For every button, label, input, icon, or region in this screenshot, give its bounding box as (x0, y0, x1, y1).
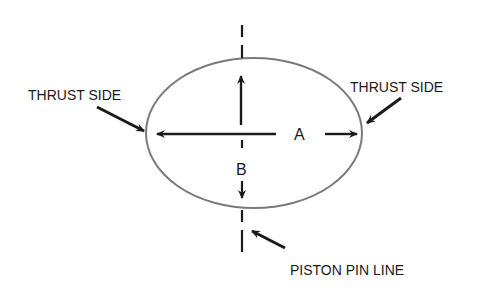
thrust-right-pointer (367, 98, 401, 123)
label-thrust-side-right: THRUST SIDE (350, 79, 443, 95)
label-thrust-side-left: THRUST SIDE (28, 87, 121, 103)
piston-pin-pointer (252, 231, 285, 248)
thrust-left-pointer (97, 107, 144, 131)
label-dimension-b: B (236, 161, 247, 178)
label-dimension-a: A (294, 126, 305, 143)
label-piston-pin-line: PISTON PIN LINE (290, 262, 404, 278)
piston-ovality-diagram: THRUST SIDE THRUST SIDE A B PISTON PIN L… (0, 0, 493, 289)
